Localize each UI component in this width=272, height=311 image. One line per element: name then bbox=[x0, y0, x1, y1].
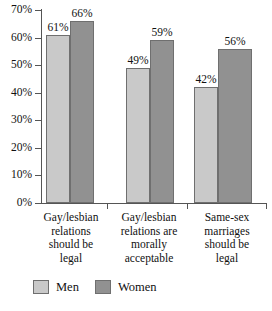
bar-value-label: 61% bbox=[47, 22, 68, 34]
category-label-line: should be bbox=[33, 238, 109, 252]
bar-women-2 bbox=[218, 49, 252, 203]
bar-women-1 bbox=[150, 40, 174, 203]
category-label-line: Same-sex bbox=[189, 211, 265, 225]
category-label-line: relations are bbox=[110, 225, 188, 239]
bar-value-label: 49% bbox=[127, 55, 148, 67]
bar-value-label: 56% bbox=[224, 36, 245, 48]
y-axis-tick bbox=[35, 65, 41, 66]
legend-label-women: Women bbox=[118, 281, 157, 294]
bar-value-label: 42% bbox=[195, 74, 216, 86]
bar-women-0 bbox=[70, 21, 94, 203]
bar-chart: 0%10%20%30%40%50%60%70% 61%49%42%66%59%5… bbox=[0, 0, 272, 311]
y-axis-tick bbox=[35, 120, 41, 121]
category-label-2: Same-sexmarriagesshould belegal bbox=[189, 211, 265, 265]
bar-men-2 bbox=[194, 87, 218, 203]
category-label-0: Gay/lesbianrelationsshould belegal bbox=[33, 211, 109, 265]
y-axis-tick bbox=[35, 93, 41, 94]
category-label-line: legal bbox=[189, 252, 265, 266]
category-label-line: marriages bbox=[189, 225, 265, 239]
category-label-line: morally bbox=[110, 238, 188, 252]
category-label-line: Gay/lesbian bbox=[110, 211, 188, 225]
bar-men-1 bbox=[126, 68, 150, 203]
category-label-1: Gay/lesbianrelations aremorallyacceptabl… bbox=[110, 211, 188, 265]
y-axis-tick-label: 60% bbox=[11, 32, 32, 44]
y-axis-tick-label: 50% bbox=[11, 59, 32, 71]
legend-label-men: Men bbox=[56, 281, 79, 294]
x-axis-tick bbox=[266, 203, 267, 209]
bar-value-label: 66% bbox=[71, 8, 92, 20]
y-axis-tick bbox=[35, 175, 41, 176]
x-axis-tick bbox=[107, 203, 108, 209]
y-axis-tick bbox=[35, 38, 41, 39]
category-label-line: acceptable bbox=[110, 252, 188, 266]
legend-item-women[interactable]: Women bbox=[95, 280, 157, 294]
category-label-line: legal bbox=[33, 252, 109, 266]
category-label-line: Gay/lesbian bbox=[33, 211, 109, 225]
y-axis-tick-label: 20% bbox=[11, 142, 32, 154]
bar-value-label: 59% bbox=[151, 27, 172, 39]
y-axis-tick bbox=[35, 148, 41, 149]
y-axis-tick-label: 70% bbox=[11, 4, 32, 16]
category-label-line: relations bbox=[33, 225, 109, 239]
y-axis-tick-label: 10% bbox=[11, 169, 32, 181]
women-swatch-icon bbox=[95, 280, 111, 294]
legend: Men Women bbox=[33, 280, 173, 294]
y-axis-tick bbox=[35, 10, 41, 11]
category-label-line: should be bbox=[189, 238, 265, 252]
bar-men-0 bbox=[46, 35, 70, 203]
y-axis-tick-label: 40% bbox=[11, 87, 32, 99]
men-swatch-icon bbox=[33, 280, 49, 294]
x-axis-line bbox=[41, 203, 267, 204]
x-axis-tick bbox=[187, 203, 188, 209]
y-axis-tick-label: 30% bbox=[11, 114, 32, 126]
y-axis-tick-label: 0% bbox=[17, 197, 32, 209]
legend-item-men[interactable]: Men bbox=[33, 280, 79, 294]
